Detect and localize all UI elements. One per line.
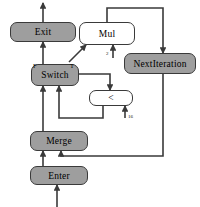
node-enter-label: Enter: [48, 171, 70, 181]
node-less-label: <: [108, 93, 114, 103]
less-constant-label: 16: [128, 114, 133, 119]
switch-true-port-label: T: [70, 63, 74, 70]
node-switch-label: Switch: [41, 70, 69, 80]
mul-constant-label: 2: [106, 51, 109, 56]
node-mul[interactable]: Mul: [79, 22, 135, 45]
control-flow-diagram: Exit Mul NextIteration Switch < Merge En…: [0, 0, 200, 207]
node-merge[interactable]: Merge: [30, 131, 88, 151]
edge-switch-true-to-less: [79, 74, 110, 90]
switch-false-port-label: F: [33, 63, 37, 70]
node-less[interactable]: <: [89, 90, 133, 106]
node-merge-label: Merge: [46, 136, 72, 146]
node-exit[interactable]: Exit: [10, 22, 76, 42]
edge-switch-true-to-mul: [69, 45, 86, 62]
node-mul-label: Mul: [99, 29, 115, 39]
node-nextiteration-label: NextIteration: [133, 59, 186, 69]
node-exit-label: Exit: [35, 27, 52, 37]
node-enter[interactable]: Enter: [30, 166, 88, 185]
node-nextiteration[interactable]: NextIteration: [124, 53, 196, 74]
